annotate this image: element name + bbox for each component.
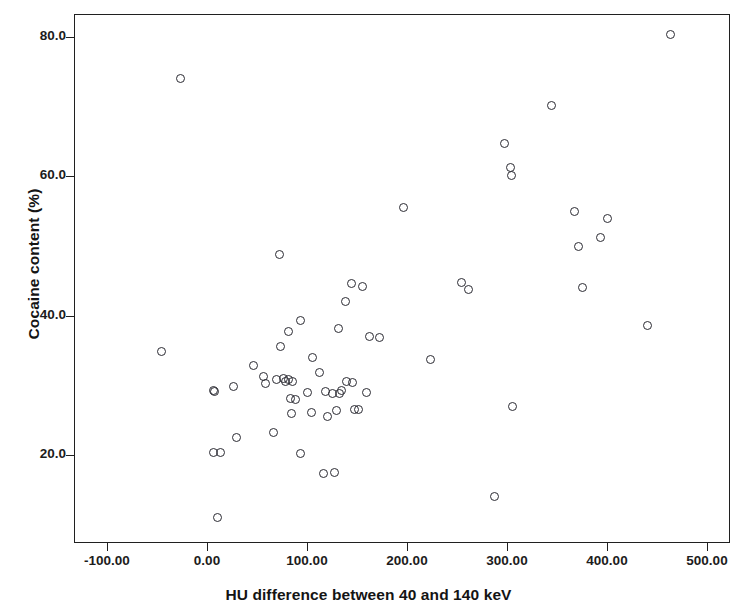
data-point: [666, 30, 675, 39]
data-point: [490, 492, 499, 501]
data-point: [507, 171, 516, 180]
y-axis-tick: [66, 455, 74, 456]
x-axis-tick-label: 500.00: [652, 553, 737, 568]
x-axis-tick-label: -100.00: [52, 553, 162, 568]
data-point: [330, 468, 339, 477]
data-point: [341, 297, 350, 306]
data-point: [288, 377, 297, 386]
y-axis-tick-label: 80.0: [0, 28, 66, 43]
data-point: [347, 279, 356, 288]
data-point: [319, 469, 328, 478]
x-axis-title: HU difference between 40 and 140 keV: [0, 586, 737, 604]
data-point: [323, 412, 332, 421]
data-point: [464, 285, 473, 294]
y-axis-tick-label: 40.0: [0, 307, 66, 322]
data-point: [296, 316, 305, 325]
data-point: [303, 388, 312, 397]
x-axis-tick: [407, 543, 408, 551]
x-axis-tick-label: 200.00: [352, 553, 462, 568]
x-axis-tick: [707, 543, 708, 551]
x-axis-tick: [607, 543, 608, 551]
data-point: [570, 207, 579, 216]
data-point: [232, 433, 241, 442]
y-axis-tick: [66, 176, 74, 177]
y-axis-tick-label: 20.0: [0, 446, 66, 461]
data-point: [261, 379, 270, 388]
data-point: [276, 342, 285, 351]
data-point: [426, 355, 435, 364]
data-point: [643, 321, 652, 330]
data-point: [176, 74, 185, 83]
x-axis-tick: [507, 543, 508, 551]
data-point: [286, 394, 295, 403]
y-axis-title: Cocaine content (%): [25, 124, 43, 404]
data-point: [508, 402, 517, 411]
data-point: [287, 409, 296, 418]
data-point: [269, 428, 278, 437]
x-axis-tick-label: 100.00: [252, 553, 362, 568]
plot-area: [74, 14, 730, 543]
data-point: [213, 513, 222, 522]
x-axis-tick: [107, 543, 108, 551]
data-point: [578, 283, 587, 292]
data-point: [354, 405, 363, 414]
data-point: [332, 406, 341, 415]
data-point: [348, 378, 357, 387]
data-point: [375, 333, 384, 342]
data-point: [308, 353, 317, 362]
data-point: [229, 382, 238, 391]
data-point: [362, 388, 371, 397]
x-axis-tick: [307, 543, 308, 551]
data-point: [315, 368, 324, 377]
data-point: [249, 361, 258, 370]
data-point: [157, 347, 166, 356]
x-axis-tick-label: 400.00: [552, 553, 662, 568]
data-point: [547, 101, 556, 110]
data-point: [334, 324, 343, 333]
x-axis-tick: [207, 543, 208, 551]
data-point: [596, 233, 605, 242]
data-point: [307, 408, 316, 417]
data-point: [365, 332, 374, 341]
x-axis-tick-label: 300.00: [452, 553, 562, 568]
data-point: [210, 387, 219, 396]
y-axis-tick-label: 60.0: [0, 167, 66, 182]
x-axis-tick-label: 0.00: [152, 553, 262, 568]
data-point: [337, 386, 346, 395]
data-point: [399, 203, 408, 212]
data-point: [275, 250, 284, 259]
data-point: [216, 448, 225, 457]
data-point: [358, 282, 367, 291]
y-axis-tick: [66, 37, 74, 38]
data-point: [284, 327, 293, 336]
y-axis-tick: [66, 316, 74, 317]
data-point: [500, 139, 509, 148]
scatter-chart-figure: Cocaine content (%) 20.040.060.080.0-100…: [0, 0, 737, 615]
data-point: [603, 214, 612, 223]
data-point: [574, 242, 583, 251]
data-point: [296, 449, 305, 458]
